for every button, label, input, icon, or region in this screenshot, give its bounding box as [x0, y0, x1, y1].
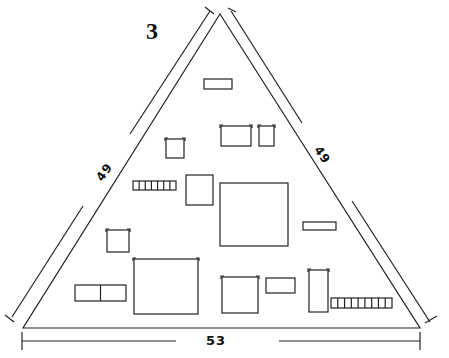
board-diagram: 3 49 49 53	[0, 0, 449, 358]
component-square-mid	[186, 175, 213, 205]
component-cap-left-mid	[106, 229, 130, 252]
component-cap-small-top	[258, 125, 275, 146]
component-cap-wide-top	[220, 125, 252, 146]
component-small-cap-left	[165, 138, 185, 158]
component-tall-cap	[308, 269, 329, 312]
component-big-chip	[220, 183, 288, 246]
base-dimension: 53	[206, 333, 226, 348]
right-dimension-line	[231, 11, 302, 123]
figure-number-label: 3	[146, 18, 158, 45]
component-bar-right	[303, 222, 336, 230]
component-rect-bottom-mid	[266, 278, 295, 293]
component-resistor-array-right	[331, 298, 392, 308]
left-dimension-line	[130, 11, 210, 134]
component-top-bar	[204, 79, 232, 89]
component-resistor-array-left	[133, 181, 176, 190]
components-group	[75, 79, 392, 314]
component-double-rect	[75, 285, 126, 301]
component-cap-bottom-mid	[221, 276, 259, 313]
component-big-box-bottom	[133, 258, 199, 314]
board-outline-svg	[0, 0, 449, 358]
